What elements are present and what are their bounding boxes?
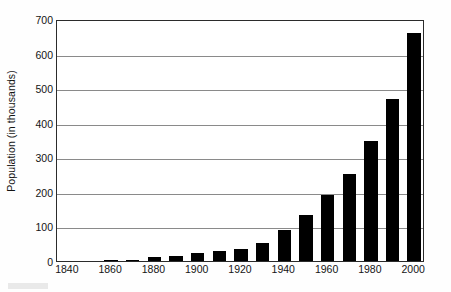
bar [321, 195, 334, 261]
y-tick-label: 700 [20, 15, 53, 26]
x-axis-tick-labels: 184018601880190019201940196019802000 [56, 264, 424, 280]
x-tick-label: 2000 [401, 264, 424, 275]
bar [343, 174, 356, 261]
x-tick-label: 1900 [185, 264, 208, 275]
bar-chart-figure: Population (in thousands) 01002003004005… [0, 0, 451, 292]
bar [299, 215, 312, 261]
bar [191, 253, 204, 261]
bar [126, 260, 139, 261]
x-tick-label: 1940 [272, 264, 295, 275]
x-tick-label: 1880 [142, 264, 165, 275]
scan-artifact [8, 283, 48, 289]
y-tick-label: 100 [20, 222, 53, 233]
x-tick-label: 1980 [358, 264, 381, 275]
y-tick-label: 200 [20, 188, 53, 199]
y-axis-tick-labels: 0100200300400500600700 [20, 0, 53, 292]
bars-series-population [57, 21, 423, 261]
bar [234, 249, 247, 261]
x-tick-label: 1840 [55, 264, 78, 275]
y-tick-label: 500 [20, 84, 53, 95]
x-tick-label: 1860 [98, 264, 121, 275]
bar [364, 141, 377, 261]
bar [213, 251, 226, 261]
x-tick-label: 1960 [315, 264, 338, 275]
bar [407, 33, 420, 261]
bar [169, 256, 182, 261]
bar [148, 257, 161, 261]
bar [104, 260, 117, 261]
y-tick-label: 600 [20, 49, 53, 60]
y-axis-title-text: Population (in thousands) [5, 70, 17, 192]
x-tick-label: 1920 [228, 264, 251, 275]
y-tick-label: 0 [20, 257, 53, 268]
y-tick-label: 400 [20, 118, 53, 129]
plot-area [56, 20, 424, 262]
bar [256, 243, 269, 261]
y-axis-title: Population (in thousands) [2, 0, 20, 262]
bar [386, 99, 399, 261]
bar [278, 230, 291, 261]
y-tick-label: 300 [20, 153, 53, 164]
